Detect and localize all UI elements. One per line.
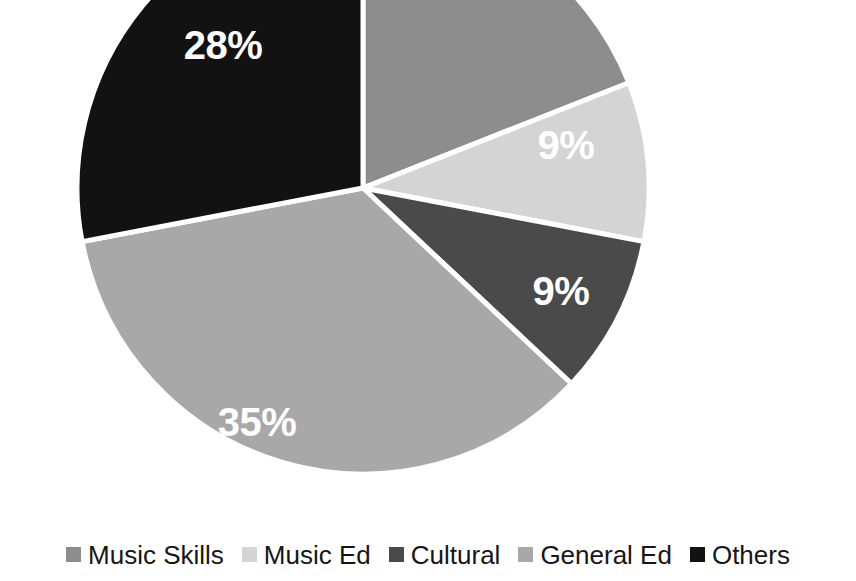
slice-percent-label: 9% — [538, 123, 595, 167]
legend-swatch-icon — [389, 547, 404, 562]
legend-swatch-icon — [66, 547, 81, 562]
legend-swatch-icon — [690, 547, 705, 562]
chart-legend: Music SkillsMusic EdCulturalGeneral EdOt… — [0, 528, 856, 581]
slice-percent-label: 35% — [218, 400, 297, 444]
pie-svg: 28%9%9%35% — [0, 0, 856, 520]
legend-item-label: Others — [712, 542, 790, 568]
legend-item-label: Cultural — [411, 542, 501, 568]
legend-item-label: Music Ed — [264, 542, 371, 568]
slice-percent-label: 9% — [533, 269, 590, 313]
pie-plot-area: 28%9%9%35% — [0, 0, 856, 520]
legend-swatch-icon — [242, 547, 257, 562]
legend-item[interactable]: Music Skills — [66, 542, 224, 568]
legend-item[interactable]: Cultural — [389, 542, 501, 568]
legend-item-label: Music Skills — [88, 542, 224, 568]
slice-percent-label: 28% — [184, 23, 263, 67]
legend-item[interactable]: Others — [690, 542, 790, 568]
legend-item[interactable]: Music Ed — [242, 542, 371, 568]
legend-item[interactable]: General Ed — [518, 542, 672, 568]
pie-slices — [77, 0, 649, 474]
legend-item-label: General Ed — [540, 542, 672, 568]
legend-swatch-icon — [518, 547, 533, 562]
pie-chart-figure: 28%9%9%35% Music SkillsMusic EdCulturalG… — [0, 0, 856, 581]
